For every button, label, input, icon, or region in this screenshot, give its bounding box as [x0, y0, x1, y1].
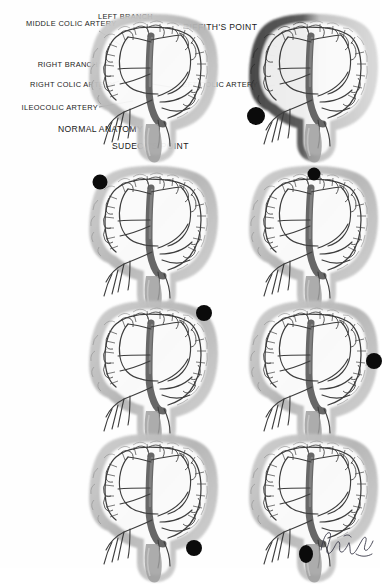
occlusion-dot [299, 545, 313, 563]
panel-normal-anatomy [78, 12, 228, 164]
occlusion-dot [186, 540, 202, 556]
occlusion-dot [247, 107, 265, 125]
panel-splenic-flexure-occlusion [78, 299, 228, 451]
panel-descending-colon-occlusion [238, 299, 386, 451]
panel-sigmoid-colon-occlusion [78, 432, 228, 584]
occlusion-dot [93, 175, 108, 190]
panel-hepatic-flexure-occlusion [78, 164, 228, 316]
occlusion-dot [366, 353, 382, 369]
panel-rectosigmoid-occlusion [238, 432, 386, 584]
panel-transverse-colon-occlusion [238, 164, 386, 316]
occlusion-dot [196, 305, 212, 321]
panel-ileocolic-occlusion [238, 12, 386, 164]
occlusion-dot [308, 168, 321, 181]
artist-signature [318, 524, 376, 560]
